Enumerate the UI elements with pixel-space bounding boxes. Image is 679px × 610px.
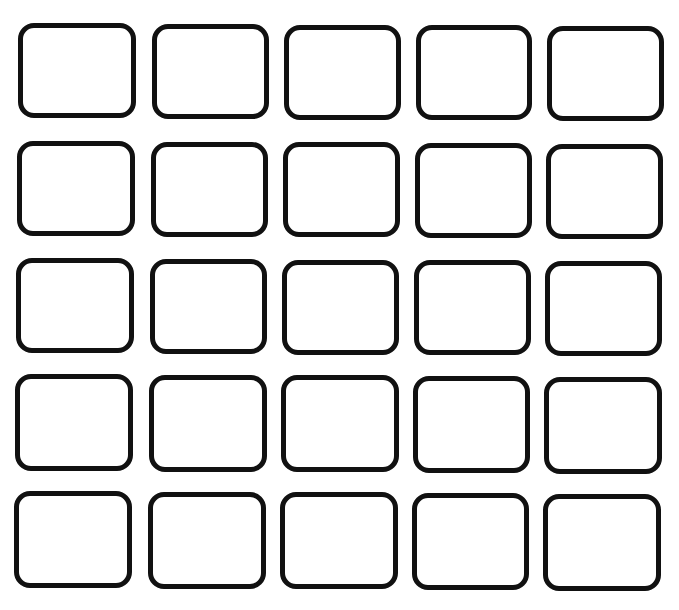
- grid-cell-r4-c3: [281, 375, 399, 472]
- grid-cell-r3-c5: [545, 261, 662, 356]
- grid-cell-r2-c2: [151, 142, 268, 237]
- grid-cell-r1-c1: [18, 23, 136, 118]
- grid-cell-r1-c3: [284, 25, 401, 120]
- grid-cell-r1-c2: [152, 24, 269, 119]
- grid-cell-r4-c2: [149, 375, 267, 472]
- grid-cell-r3-c3: [282, 260, 399, 355]
- grid-cell-r1-c4: [416, 25, 532, 120]
- grid-cell-r2-c1: [17, 141, 135, 236]
- grid-cell-r3-c1: [16, 258, 134, 353]
- grid-cell-r2-c5: [546, 144, 663, 239]
- grid-cell-r5-c4: [412, 493, 529, 590]
- grid-cell-r2-c4: [415, 143, 532, 238]
- grid-cell-r4-c1: [15, 374, 133, 471]
- grid-cell-r3-c2: [150, 259, 267, 354]
- grid-cell-r1-c5: [547, 26, 664, 121]
- grid-cell-r4-c5: [544, 377, 662, 474]
- grid-cell-r5-c2: [148, 492, 266, 589]
- grid-cell-r3-c4: [414, 260, 531, 355]
- grid-cell-r5-c3: [280, 492, 398, 589]
- grid-cell-r5-c1: [14, 491, 132, 588]
- grid-cell-r5-c5: [543, 494, 661, 591]
- grid-cell-r2-c3: [283, 142, 400, 237]
- grid-cell-r4-c4: [413, 376, 530, 473]
